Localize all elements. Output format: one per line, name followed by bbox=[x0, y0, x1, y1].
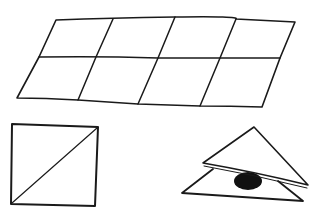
grid-vertical-line-1 bbox=[78, 19, 113, 100]
grid-horizontal-line bbox=[39, 57, 280, 58]
grid-vertical-line-3 bbox=[200, 19, 236, 106]
square-with-diagonal bbox=[11, 124, 98, 206]
sketch-canvas bbox=[0, 0, 322, 220]
grid-vertical-line-2 bbox=[138, 17, 175, 104]
perspective-grid bbox=[17, 17, 295, 107]
square-diagonal bbox=[12, 128, 97, 203]
overlapping-triangles bbox=[182, 127, 308, 201]
